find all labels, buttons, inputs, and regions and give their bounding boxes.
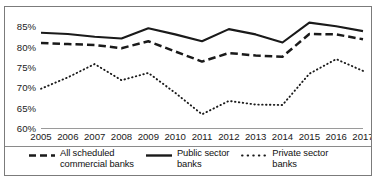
- line-chart-svg: 60%65%70%75%80%85% 200520062007200820092…: [5, 7, 371, 146]
- x-tick-label: 2012: [218, 131, 239, 142]
- series-line: [41, 23, 363, 43]
- y-tick-label: 65%: [17, 103, 37, 114]
- x-tick-label: 2008: [111, 131, 132, 142]
- x-tick-label: 2009: [138, 131, 159, 142]
- x-tick-label: 2011: [192, 131, 213, 142]
- legend-swatch-dashed-icon: [29, 150, 55, 161]
- x-tick-label: 2013: [245, 131, 266, 142]
- x-tick-label: 2014: [272, 131, 294, 142]
- x-tick-label: 2015: [299, 131, 320, 142]
- plot-area: 60%65%70%75%80%85% 200520062007200820092…: [5, 7, 371, 146]
- chart-card: 60%65%70%75%80%85% 200520062007200820092…: [4, 6, 372, 176]
- x-tick-label: 2016: [325, 131, 346, 142]
- legend-label-all-scheduled-commercial-banks: All scheduled commercial banks: [60, 148, 134, 169]
- x-axis-tick-labels: 2005200620072008200920102011201220132014…: [30, 131, 371, 142]
- y-tick-label: 70%: [17, 82, 37, 93]
- legend-item-public-sector-banks: Public sector banks: [146, 148, 229, 169]
- data-series-group: [41, 23, 363, 115]
- y-tick-label: 80%: [17, 42, 37, 53]
- legend-label-private-sector-banks: Private sector banks: [272, 148, 328, 169]
- legend-swatch-solid-icon: [146, 150, 172, 161]
- y-axis-tick-labels: 60%65%70%75%80%85%: [17, 21, 37, 133]
- y-tick-label: 85%: [17, 21, 37, 32]
- series-line: [41, 59, 363, 114]
- legend-item-all-scheduled-commercial-banks: All scheduled commercial banks: [29, 148, 134, 169]
- x-tick-label: 2005: [30, 131, 51, 142]
- legend-label-public-sector-banks: Public sector banks: [177, 148, 229, 169]
- x-tick-label: 2007: [84, 131, 105, 142]
- series-line: [41, 34, 363, 62]
- x-tick-label: 2010: [164, 131, 185, 142]
- x-tick-label: 2017: [352, 131, 371, 142]
- legend-swatch-dotted-icon: [241, 150, 267, 161]
- y-tick-label: 75%: [17, 62, 37, 73]
- legend-item-private-sector-banks: Private sector banks: [241, 148, 328, 169]
- chart-legend: All scheduled commercial banks Public se…: [5, 148, 371, 176]
- x-tick-label: 2006: [57, 131, 78, 142]
